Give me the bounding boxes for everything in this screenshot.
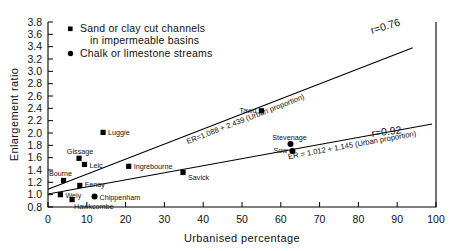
data-point-label-luggie: Luggie <box>108 128 130 137</box>
data-point-label-tawd: Tawd <box>240 106 257 115</box>
data-point-label-ingrebourne: Ingrebourne <box>134 162 173 171</box>
legend-label-sand-clay-line1: Sand or clay cut channels <box>80 22 205 34</box>
y-tick-label: 1.0 <box>27 188 42 200</box>
y-tick-label: 2.0 <box>27 127 42 139</box>
data-point-wely <box>58 192 63 197</box>
y-tick-label: 2.2 <box>27 114 42 126</box>
upper-r-label: r=0.76 <box>369 16 401 36</box>
data-point-tawd <box>259 108 264 113</box>
chart-container: 0.81.01.21.41.61.82.02.22.42.62.83.03.23… <box>0 0 459 251</box>
data-point-luggie <box>100 130 105 135</box>
x-tick-label: 30 <box>159 213 171 225</box>
regression-line-upper-regression <box>48 48 413 189</box>
data-point-label-gissage: Gissage <box>67 147 93 156</box>
data-point-gissage <box>76 156 81 161</box>
x-tick-label: 80 <box>353 213 365 225</box>
data-point-label-hawkcombe: Hawkcombe <box>74 202 114 211</box>
y-tick-label: 3.4 <box>27 40 42 52</box>
data-point-leic <box>82 162 87 167</box>
y-tick-label: 1.2 <box>27 176 42 188</box>
data-point-label-savick: Savick <box>188 173 210 182</box>
x-tick-label: 70 <box>314 213 326 225</box>
x-tick-label: 20 <box>120 213 132 225</box>
x-tick-label: 90 <box>391 213 403 225</box>
data-point-sow <box>289 148 295 154</box>
plot-generated-layer: 0.81.01.21.41.61.82.02.22.42.62.83.03.23… <box>8 16 445 244</box>
data-point-label-sow: Sow <box>273 146 288 155</box>
data-point-label-chippenham: Chippenham <box>100 193 141 202</box>
x-tick-label: 10 <box>81 213 93 225</box>
legend-circle-marker-icon <box>68 51 73 56</box>
data-point-label-stevenage: Stevenage <box>272 133 306 142</box>
data-point-label-fenay: Fenay <box>85 180 105 189</box>
legend-square-marker-icon <box>68 27 73 32</box>
x-tick-label: 100 <box>427 213 445 225</box>
data-point-fenay <box>77 183 82 188</box>
y-axis-title: Enlargement ratio <box>8 68 20 162</box>
y-tick-label: 1.4 <box>27 164 42 176</box>
y-tick-label: 2.8 <box>27 77 42 89</box>
y-tick-label: 3.6 <box>27 28 42 40</box>
data-point-bourne <box>61 178 66 183</box>
y-tick-label: 2.4 <box>27 102 42 114</box>
y-tick-label: 0.8 <box>27 201 42 213</box>
x-axis-title: Urbanised percentage <box>184 232 300 244</box>
y-tick-label: 2.6 <box>27 90 42 102</box>
x-tick-label: 40 <box>197 213 209 225</box>
x-tick-label: 60 <box>275 213 287 225</box>
y-tick-label: 1.8 <box>27 139 42 151</box>
scatter-plot: 0.81.01.21.41.61.82.02.22.42.62.83.03.23… <box>0 0 459 251</box>
data-point-chippenham <box>92 194 98 200</box>
data-point-ingrebourne <box>126 164 131 169</box>
y-tick-label: 3.0 <box>27 65 42 77</box>
y-tick-label: 3.2 <box>27 53 42 65</box>
legend-label-sand-clay-line2: in impermeable basins <box>90 34 199 46</box>
data-point-stevenage <box>288 141 294 147</box>
y-tick-label: 3.8 <box>27 16 42 28</box>
y-tick-label: 1.6 <box>27 151 42 163</box>
data-point-label-leic: Leic <box>89 161 103 170</box>
x-tick-label: 0 <box>45 213 51 225</box>
legend-label-chalk-limestone: Chalk or limestone streams <box>80 47 212 59</box>
x-tick-label: 50 <box>236 213 248 225</box>
data-point-savick <box>180 170 185 175</box>
data-point-label-bourne: Bourne <box>49 169 72 178</box>
